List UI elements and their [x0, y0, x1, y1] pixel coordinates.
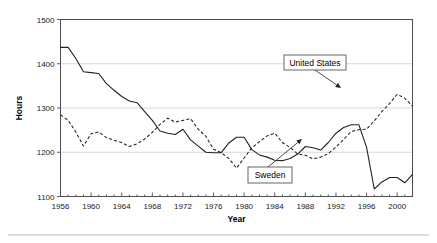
x-tick-label-1972: 1972	[174, 202, 192, 211]
x-axis-title: Year	[228, 214, 247, 224]
x-tick-label-1964: 1964	[113, 202, 131, 211]
x-tick-label-1984: 1984	[266, 202, 284, 211]
callout-label-sweden: Sweden	[255, 170, 286, 180]
callout-label-united-states: United States	[289, 58, 340, 68]
x-tick-label-1976: 1976	[205, 202, 223, 211]
x-tick-label-1980: 1980	[235, 202, 253, 211]
x-tick-label-1968: 1968	[143, 202, 161, 211]
y-tick-label-1400: 1400	[37, 60, 55, 69]
x-tick-label-1956: 1956	[52, 202, 70, 211]
x-tick-label-1988: 1988	[296, 202, 314, 211]
hours-worked-line-chart: 11001200130014001500 1956196019641968197…	[0, 0, 437, 243]
y-tick-label-1500: 1500	[37, 16, 55, 25]
y-tick-label-1300: 1300	[37, 104, 55, 113]
y-axis-title: Hours	[14, 95, 24, 120]
y-tick-label-1200: 1200	[37, 148, 55, 157]
x-tick-label-1960: 1960	[82, 202, 100, 211]
y-tick-label-1100: 1100	[37, 193, 55, 202]
x-tick-label-1996: 1996	[358, 202, 376, 211]
x-tick-label-2000: 2000	[388, 202, 406, 211]
x-tick-label-1992: 1992	[327, 202, 345, 211]
